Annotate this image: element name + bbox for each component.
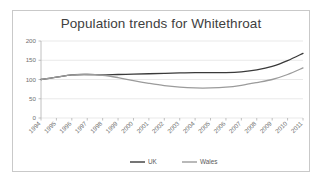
svg-text:200: 200	[26, 37, 37, 44]
svg-text:2009: 2009	[258, 119, 273, 134]
svg-text:2000: 2000	[119, 119, 134, 134]
svg-text:50: 50	[29, 95, 36, 102]
svg-text:1998: 1998	[89, 119, 104, 134]
svg-text:150: 150	[26, 56, 37, 63]
svg-text:2005: 2005	[197, 119, 212, 134]
svg-text:2008: 2008	[243, 119, 258, 134]
svg-text:2001: 2001	[135, 119, 150, 134]
svg-text:100: 100	[26, 76, 37, 83]
svg-text:Wales: Wales	[200, 158, 218, 165]
svg-text:2010: 2010	[274, 119, 289, 134]
svg-text:1995: 1995	[42, 119, 57, 134]
svg-text:2004: 2004	[181, 119, 196, 134]
gridlines	[41, 41, 303, 118]
data-series-group	[41, 53, 303, 88]
svg-text:2007: 2007	[227, 119, 242, 134]
svg-text:UK: UK	[148, 158, 158, 165]
svg-text:2011: 2011	[289, 119, 304, 134]
svg-text:2006: 2006	[212, 119, 227, 134]
svg-text:1999: 1999	[104, 119, 119, 134]
chart-frame: Population trends for Whitethroat 050100…	[12, 10, 310, 172]
y-axis-tick-labels: 050100150200	[26, 37, 37, 121]
svg-text:1997: 1997	[73, 119, 88, 134]
line-chart-plot: 050100150200 199419951996199719981999200…	[13, 11, 311, 173]
svg-text:1996: 1996	[58, 119, 73, 134]
chart-screenshot: Population trends for Whitethroat 050100…	[0, 0, 327, 185]
x-axis-tick-labels: 1994199519961997199819992000200120022003…	[27, 119, 304, 134]
svg-text:1994: 1994	[27, 119, 42, 134]
svg-text:2002: 2002	[150, 119, 165, 134]
svg-text:2003: 2003	[166, 119, 181, 134]
chart-legend: UKWales	[130, 158, 218, 165]
